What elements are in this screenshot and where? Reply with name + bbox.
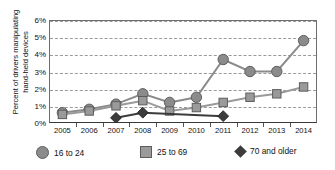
x-axis-tick-mark [210,123,211,127]
data-point-circle [245,66,255,76]
x-axis-tick-label: 2010 [188,126,205,135]
x-axis-tick-label: 2011 [215,126,231,135]
data-point-circle [272,66,282,76]
line-chart: Percent of drivers manipulating hand-hel… [0,0,335,170]
circle-marker-icon [36,146,49,159]
data-point-circle [298,35,308,45]
x-axis-tick-mark [183,123,184,127]
y-axis-tick-label: 6% [22,16,46,25]
data-point-circle [191,92,201,102]
diamond-marker-icon [234,145,247,158]
data-point-diamond [218,111,229,122]
legend-item-label: 70 and older [250,146,297,156]
x-axis-tick-mark [263,123,264,127]
series-line-circle [62,41,303,113]
square-marker-icon [140,146,152,158]
chart-legend: 16 to 2425 to 6970 and older [36,146,326,164]
data-point-square [112,102,120,110]
data-point-diamond [137,107,148,118]
y-axis-title-line-1: Percent of drivers manipulating [11,0,21,128]
y-axis-tick-label: 3% [22,67,46,76]
data-point-square [58,110,66,118]
x-axis-tick-label: 2007 [108,126,125,135]
y-axis-tick-label: 1% [22,101,46,110]
data-point-square [85,107,93,115]
data-point-circle [164,97,174,107]
x-axis-tick-mark [156,123,157,127]
legend-item: 70 and older [236,146,297,156]
legend-item-label: 16 to 24 [54,148,84,158]
x-axis-tick-mark [290,123,291,127]
x-axis-tick-label: 2014 [295,126,312,135]
x-axis-tick-label: 2009 [161,126,178,135]
data-point-square [219,98,227,106]
data-point-square [246,93,254,101]
legend-item: 25 to 69 [140,146,187,158]
data-point-square [273,90,281,98]
x-axis-tick-label: 2013 [268,126,285,135]
data-point-circle [218,54,228,64]
x-axis-tick-mark [76,123,77,127]
x-axis-tick-label: 2005 [54,126,71,135]
y-axis-tick-label: 4% [22,50,46,59]
y-axis-tick-label: 0% [22,119,46,128]
data-point-square [139,96,147,104]
x-axis-tick-mark [237,123,238,127]
data-point-diamond [111,112,122,123]
legend-item-label: 25 to 69 [157,147,187,157]
x-axis-tick-label: 2008 [134,126,151,135]
data-point-square [192,103,200,111]
x-axis-tick-label: 2012 [242,126,259,135]
y-axis-tick-label: 5% [22,33,46,42]
legend-item: 16 to 24 [36,146,84,159]
x-axis-tick-mark [129,123,130,127]
x-axis-tick-mark [103,123,104,127]
x-axis-tick-label: 2006 [81,126,98,135]
data-point-square [299,83,307,91]
series-layer [49,20,317,123]
y-axis-tick-label: 2% [22,84,46,93]
